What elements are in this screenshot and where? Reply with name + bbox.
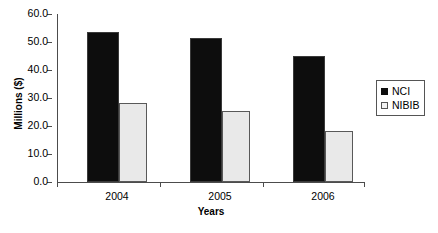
x-tick-start xyxy=(57,182,58,187)
y-tick-label-6: 60.0 xyxy=(28,7,48,20)
y-tick-label-3: 30.0 xyxy=(28,91,48,104)
x-tick-label-2005: 2005 xyxy=(180,190,260,202)
y-tick-4: 40.0 xyxy=(52,70,57,71)
legend: NCI NIBIB xyxy=(376,80,425,116)
y-tick-label-0: 0.0 xyxy=(33,175,48,188)
y-tick-1: 10.0 xyxy=(52,154,57,155)
y-tick-5: 50.0 xyxy=(52,42,57,43)
bar-nibib-2004 xyxy=(119,103,147,182)
y-tick-label-5: 50.0 xyxy=(28,35,48,48)
legend-item-nci: NCI xyxy=(381,84,419,98)
legend-item-nibib: NIBIB xyxy=(381,98,419,112)
bar-nci-2004 xyxy=(87,32,119,182)
legend-label-nci: NCI xyxy=(392,85,410,97)
y-tick-3: 30.0 xyxy=(52,98,57,99)
y-axis-line xyxy=(57,14,58,183)
y-tick-label-2: 20.0 xyxy=(28,119,48,132)
x-tick-1 xyxy=(160,182,161,187)
legend-swatch-icon-nci xyxy=(381,88,388,95)
x-tick-2 xyxy=(263,182,264,187)
x-tick-end xyxy=(364,182,365,187)
y-tick-6: 60.0 xyxy=(52,14,57,15)
bar-nibib-2005 xyxy=(222,111,250,182)
x-axis-title: Years xyxy=(57,206,365,217)
y-tick-label-1: 10.0 xyxy=(28,147,48,160)
x-axis-line xyxy=(57,182,365,183)
legend-label-nibib: NIBIB xyxy=(392,99,419,111)
legend-swatch-icon-nibib xyxy=(381,102,388,109)
y-tick-label-4: 40.0 xyxy=(28,63,48,76)
bar-nci-2005 xyxy=(190,38,222,182)
bar-nci-2006 xyxy=(293,56,325,182)
x-tick-label-2004: 2004 xyxy=(77,190,157,202)
bar-chart: Millions ($) 0.0 10.0 20.0 30.0 40.0 50.… xyxy=(0,0,438,233)
x-tick-label-2006: 2006 xyxy=(283,190,363,202)
y-axis-title: Millions ($) xyxy=(13,44,24,164)
plot-area: 0.0 10.0 20.0 30.0 40.0 50.0 60.0 xyxy=(57,14,365,182)
y-tick-2: 20.0 xyxy=(52,126,57,127)
bar-nibib-2006 xyxy=(325,131,353,182)
